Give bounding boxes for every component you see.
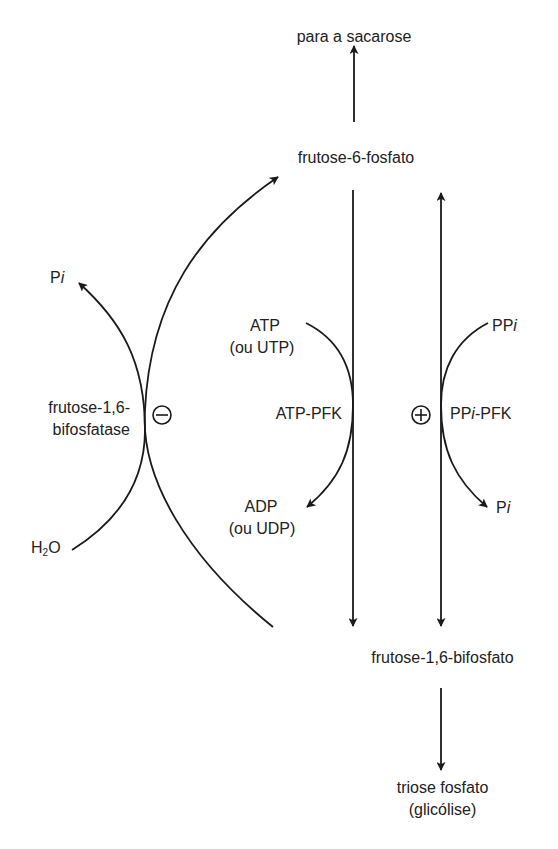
node-triose-phosphate: triose fosfato <box>370 778 515 798</box>
utp-label: (ou UTP) <box>212 338 312 358</box>
piout-p: P <box>496 499 507 516</box>
ppi-in-label: PPi <box>492 316 517 336</box>
fbpase-inhibition-icon <box>153 406 171 424</box>
ppi-pfk-activation-icon <box>412 406 430 424</box>
node-sucrose: para a sacarose <box>284 27 424 47</box>
piout-i: i <box>507 499 511 516</box>
ppipfk-pfk: -PFK <box>475 405 511 422</box>
ppi-pp: PP <box>492 317 513 334</box>
node-glycolysis: (glicólise) <box>370 800 515 820</box>
atp-pfk-name: ATP-PFK <box>220 404 342 424</box>
udp-label: (ou UDP) <box>212 519 312 539</box>
ppipfk-pp: PP <box>450 405 471 422</box>
fbpase-name-line2: bifosfatase <box>0 420 130 440</box>
adp-label: ADP <box>216 497 306 517</box>
fbpase-substrate-water: H2O <box>31 538 61 558</box>
pi-i: i <box>61 269 65 286</box>
arrow-fbpase-main <box>145 177 278 627</box>
pi-out-label: Pi <box>496 498 510 518</box>
pi-p: P <box>50 269 61 286</box>
node-fructose-1-6-bisphosphate: frutose-1,6-bifosfato <box>330 648 555 668</box>
h2o-h: H <box>31 539 43 556</box>
ppi-i: i <box>513 317 517 334</box>
atp-label: ATP <box>220 316 310 336</box>
node-fructose-6-phosphate: frutose-6-fosfato <box>276 148 436 168</box>
fbpase-name-line1: frutose-1,6- <box>0 398 130 418</box>
h2o-o: O <box>48 539 60 556</box>
ppi-pfk-name: PPi-PFK <box>450 404 511 424</box>
fbpase-product-pi: Pi <box>50 268 64 288</box>
